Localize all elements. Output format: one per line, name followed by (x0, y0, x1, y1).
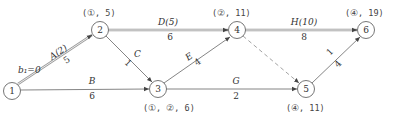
node-5-annotation: (④, 11) (286, 103, 325, 113)
network-diagram: A(2) 5 B 6 C 1 D(5) 6 E 4 G 2 H(10) 8 1 … (0, 0, 396, 117)
svg-text:6: 6 (363, 25, 369, 35)
node-3: 3 (150, 81, 167, 98)
edge-b (20, 89, 149, 90)
node-4-annotation: (②, 11) (212, 8, 251, 18)
node-5: 5 (298, 81, 315, 98)
edge-b-name: B (88, 76, 96, 86)
edge-d-name: D(5) (157, 17, 178, 27)
node-1: 1 (4, 83, 21, 100)
node-2-annotation: (①, 5) (82, 8, 116, 18)
svg-text:4: 4 (234, 25, 240, 35)
node-4: 4 (229, 22, 246, 39)
node-6-annotation: (④, 19) (345, 8, 384, 18)
edge-e-duration: 4 (192, 56, 203, 68)
edge-g-name: G (232, 76, 239, 86)
node-3-annotation: (①, ②, 6) (143, 103, 195, 113)
edge-5-6-extra: 1 (324, 46, 335, 57)
edge-g-duration: 2 (233, 91, 239, 101)
edge-h-name: H(10) (290, 17, 318, 27)
edge-c-name: C (134, 49, 141, 59)
edge-a-duration: 5 (62, 54, 73, 66)
edge-b-duration: 6 (89, 91, 95, 101)
start-label: b₁=0 (18, 65, 41, 75)
edge-dummy (243, 36, 299, 83)
edge-d-duration: 6 (167, 32, 173, 42)
svg-text:1: 1 (9, 86, 15, 96)
edge-5-6-duration: 4 (332, 58, 343, 69)
svg-text:2: 2 (97, 25, 103, 35)
node-6: 6 (358, 22, 375, 39)
node-2: 2 (92, 22, 109, 39)
edge-c-duration: 1 (123, 57, 134, 68)
svg-text:3: 3 (155, 84, 161, 94)
edge-h-duration: 8 (301, 32, 307, 42)
svg-text:5: 5 (303, 84, 309, 94)
